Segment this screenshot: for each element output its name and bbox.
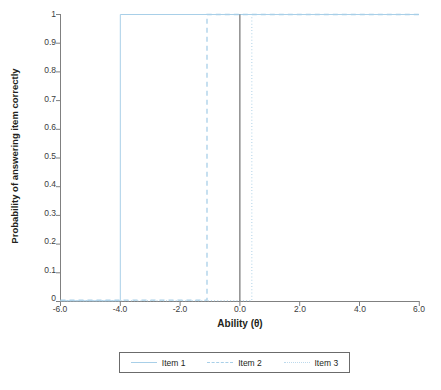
x-tick-label: -6.0 [40, 304, 80, 314]
line-dotted-icon [284, 358, 310, 367]
x-tick-label: -4.0 [100, 304, 140, 314]
chart-legend: Item 1 Item 2 Item 3 [119, 352, 350, 373]
plot-area [0, 0, 441, 390]
x-tick-label: 2.0 [280, 304, 320, 314]
x-tick-label: 6.0 [399, 304, 439, 314]
legend-entry-item-1: Item 1 [131, 358, 186, 368]
x-tick-label: -2.0 [160, 304, 200, 314]
chart-figure: Probability of answering item correctly … [0, 0, 441, 390]
x-tick-label: 0.0 [220, 304, 260, 314]
x-axis-title: Ability (θ) [60, 318, 420, 329]
legend-label: Item 3 [315, 358, 339, 368]
line-dashed-icon [207, 358, 233, 367]
legend-entry-item-3: Item 3 [284, 358, 339, 368]
legend-label: Item 2 [238, 358, 262, 368]
legend-entry-item-2: Item 2 [207, 358, 262, 368]
line-solid-icon [131, 358, 157, 367]
y-axis-ticks [56, 15, 60, 302]
x-tick-label: 4.0 [340, 304, 380, 314]
legend-label: Item 1 [162, 358, 186, 368]
